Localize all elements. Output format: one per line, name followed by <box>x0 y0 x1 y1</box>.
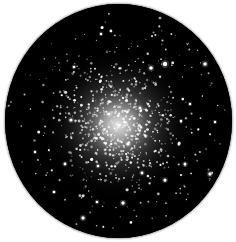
field-vignette <box>5 4 232 238</box>
image-canvas: globular star cluster in telescope eyepi… <box>0 0 236 242</box>
star-cluster <box>5 4 232 238</box>
telescope-field: globular star cluster in telescope eyepi… <box>5 4 232 238</box>
